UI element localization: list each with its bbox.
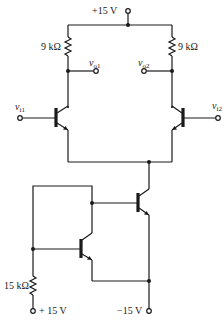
vo1-label-sub: o1 (93, 62, 100, 70)
vo2-label-sub: o2 (142, 62, 149, 70)
left-collector-resistor (65, 25, 71, 108)
left-resistor-label: 9 kΩ (41, 42, 61, 52)
transistor-q1 (18, 106, 68, 162)
bottom-left-supply-label: + 15 V (39, 306, 67, 316)
transistor-q4 (33, 233, 149, 281)
transistor-q3 (93, 162, 149, 309)
right-resistor-label: 9 kΩ (178, 42, 198, 52)
bias-resistor-label: 15 kΩ (4, 281, 29, 291)
vo1-label: vo1 (89, 58, 100, 70)
top-supply-label: +15 V (92, 6, 117, 16)
vo2-label: vo2 (138, 58, 149, 70)
top-supply-terminal (126, 9, 131, 25)
vi1-label-sub: i1 (19, 106, 24, 114)
right-collector-resistor (169, 25, 175, 108)
junction-dots (31, 23, 174, 283)
negative-supply-label: −15 V (117, 306, 142, 316)
vi2-label-sub: i2 (216, 105, 221, 113)
vi2-label: vi2 (212, 101, 222, 113)
vi1-label: vi1 (15, 102, 25, 114)
negative-supply-terminal (147, 309, 152, 314)
bias-resistor (30, 249, 36, 313)
transistor-q2 (172, 106, 220, 162)
